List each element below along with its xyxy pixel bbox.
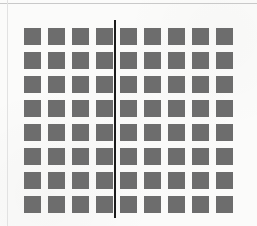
page-rule-vertical [7,0,8,226]
grid-cell [120,100,137,117]
grid-square [192,196,209,213]
grid-cell [120,52,137,69]
grid-square [120,196,137,213]
figure-title: Grid of squares bisected by a vertical l… [0,0,1,1]
grid-square [144,28,161,45]
grid-square [192,76,209,93]
grid-square [24,100,41,117]
grid-cell [216,28,233,45]
grid-square [144,76,161,93]
grid-cell [192,124,209,141]
grid-square [72,196,89,213]
grid-cell [72,76,89,93]
vertical-divider-line [114,20,116,218]
grid-cell [168,124,185,141]
grid-square [48,148,65,165]
grid-square [216,52,233,69]
grid-square [24,196,41,213]
grid-cell [24,100,41,117]
grid-square [192,124,209,141]
grid-cell [168,52,185,69]
grid-cell [144,148,161,165]
grid-cell [192,196,209,213]
grid-square [48,100,65,117]
grid-cell [96,76,113,93]
grid-square [216,100,233,117]
grid-cell [216,52,233,69]
grid-cell [216,148,233,165]
grid-square [168,148,185,165]
grid-square [168,52,185,69]
grid-cell [24,124,41,141]
grid-cell [216,196,233,213]
grid-cell [120,124,137,141]
grid-cell [144,196,161,213]
grid-square [168,196,185,213]
grid-square [168,76,185,93]
grid-square [48,196,65,213]
grid-square [144,52,161,69]
grid-cell [72,196,89,213]
grid-cell [24,28,41,45]
grid-square [96,52,113,69]
page-rule-horizontal [0,3,257,4]
grid-square [120,124,137,141]
grid-square [144,172,161,189]
grid-cell [72,124,89,141]
grid-cell [144,52,161,69]
grid-square [216,124,233,141]
grid-cell [48,196,65,213]
grid-cell [120,28,137,45]
grid-square [120,76,137,93]
grid-cell [72,52,89,69]
grid-square [216,148,233,165]
grid-square [48,76,65,93]
grid-square [72,28,89,45]
grid-cell [48,148,65,165]
grid-square [120,100,137,117]
grid-square [144,196,161,213]
grid-cell [144,28,161,45]
grid-cell [72,148,89,165]
grid-cell [48,52,65,69]
grid-cell [48,28,65,45]
grid-cell [96,100,113,117]
grid-cell [96,172,113,189]
grid-cell [96,148,113,165]
grid-cell [168,196,185,213]
grid-square [48,124,65,141]
grid-cell [48,124,65,141]
grid-cell [120,172,137,189]
grid-cell [96,124,113,141]
grid-square [144,148,161,165]
grid-cell [216,76,233,93]
grid-square [96,100,113,117]
grid-square [96,172,113,189]
grid-square [216,76,233,93]
grid-cell [120,148,137,165]
grid-cell [168,28,185,45]
grid-square [192,172,209,189]
grid-square [168,100,185,117]
grid-square [216,28,233,45]
grid-square [120,28,137,45]
grid-cell [168,76,185,93]
grid-square [96,148,113,165]
grid-square [48,52,65,69]
grid-square [24,76,41,93]
grid-cell [48,172,65,189]
grid-square [24,148,41,165]
grid-square [96,196,113,213]
grid-cell [96,196,113,213]
grid-square [120,172,137,189]
grid-square [192,52,209,69]
grid-cell [216,172,233,189]
grid-cell [24,76,41,93]
grid-square [24,124,41,141]
grid-cell [192,100,209,117]
grid-cell [192,172,209,189]
grid-square [72,148,89,165]
grid-square [48,28,65,45]
grid-cell [96,52,113,69]
grid-square [216,196,233,213]
